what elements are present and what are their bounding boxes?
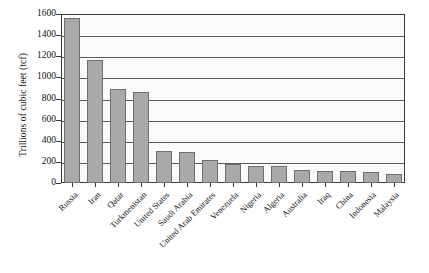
x-tick-mark bbox=[164, 183, 165, 187]
x-tick-mark bbox=[394, 183, 395, 187]
bar[interactable] bbox=[179, 152, 195, 183]
bar[interactable] bbox=[386, 174, 402, 183]
y-tick-label: 1400 bbox=[37, 30, 56, 40]
x-tick-mark bbox=[141, 183, 142, 187]
bar-series bbox=[61, 14, 405, 183]
x-tick-mark bbox=[210, 183, 211, 187]
bar[interactable] bbox=[87, 60, 103, 183]
bar[interactable] bbox=[294, 170, 310, 183]
x-tick-label: Russia bbox=[0, 190, 80, 273]
x-tick-mark bbox=[187, 183, 188, 187]
bar[interactable] bbox=[202, 160, 218, 183]
bar[interactable] bbox=[363, 172, 379, 183]
x-tick-mark bbox=[371, 183, 372, 187]
bar[interactable] bbox=[64, 18, 80, 183]
bar[interactable] bbox=[225, 164, 241, 183]
y-tick-mark bbox=[56, 183, 61, 184]
x-tick-mark bbox=[72, 183, 73, 187]
x-tick-mark bbox=[302, 183, 303, 187]
bar[interactable] bbox=[110, 89, 126, 183]
natural-gas-reserves-bar-chart: Trillions of cubic feet (tcf) 0200400600… bbox=[0, 0, 429, 273]
bar[interactable] bbox=[133, 92, 149, 183]
bar[interactable] bbox=[248, 166, 264, 183]
bar[interactable] bbox=[317, 171, 333, 183]
x-tick-mark bbox=[348, 183, 349, 187]
y-tick-label: 800 bbox=[42, 94, 56, 104]
y-tick-label: 600 bbox=[42, 115, 56, 125]
bar[interactable] bbox=[271, 166, 287, 183]
y-tick-label: 1200 bbox=[37, 51, 56, 61]
y-tick-label: 400 bbox=[42, 136, 56, 146]
bar[interactable] bbox=[156, 151, 172, 183]
y-axis-tick-labels: 02004006008001000120014001600 bbox=[24, 14, 58, 183]
x-tick-mark bbox=[256, 183, 257, 187]
bar[interactable] bbox=[340, 171, 356, 183]
x-tick-mark bbox=[95, 183, 96, 187]
y-tick-label: 1000 bbox=[37, 73, 56, 83]
y-tick-label: 1600 bbox=[37, 9, 56, 19]
x-tick-mark bbox=[118, 183, 119, 187]
x-tick-mark bbox=[325, 183, 326, 187]
y-tick-label: 200 bbox=[42, 157, 56, 167]
x-tick-mark bbox=[279, 183, 280, 187]
x-tick-mark bbox=[233, 183, 234, 187]
